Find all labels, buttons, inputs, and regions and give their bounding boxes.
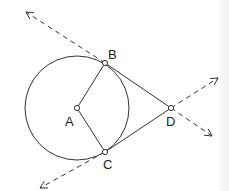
point-label-c: C bbox=[103, 157, 112, 172]
dashed-ray-through-d bbox=[171, 78, 218, 108]
dashed-ray-through-d bbox=[171, 108, 212, 136]
point-label-d: D bbox=[166, 114, 175, 129]
point-label-b: B bbox=[108, 47, 117, 62]
dashed-ray-through-c bbox=[40, 152, 105, 188]
dashed-ray-through-b bbox=[26, 12, 105, 63]
point-label-a: A bbox=[65, 114, 74, 129]
segment-ab bbox=[77, 63, 105, 108]
point-b bbox=[102, 60, 107, 65]
point-a bbox=[74, 105, 79, 110]
geometry-diagram: ABCD bbox=[0, 0, 229, 191]
segment-cd bbox=[105, 108, 171, 152]
diagram-shapes bbox=[25, 12, 218, 188]
point-c bbox=[102, 149, 107, 154]
point-d bbox=[168, 105, 173, 110]
segment-ac bbox=[77, 108, 105, 152]
diagram-labels: ABCD bbox=[65, 47, 175, 172]
segment-bd bbox=[105, 63, 171, 108]
